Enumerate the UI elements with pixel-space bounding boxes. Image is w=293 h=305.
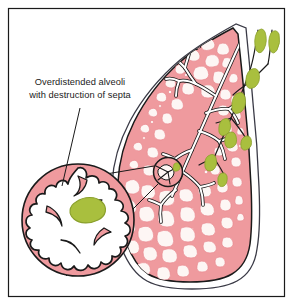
magnified-alveoli-circle — [22, 164, 134, 276]
lung-emphysema-illustration: Overdistended alveoli with destruction o… — [0, 0, 293, 305]
illustration-canvas — [0, 0, 293, 305]
